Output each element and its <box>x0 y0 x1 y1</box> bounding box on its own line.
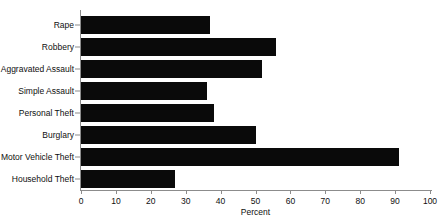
category-label: Household Theft <box>12 175 74 184</box>
bar <box>81 38 276 56</box>
bar-row <box>81 82 430 100</box>
category-label: Rape <box>54 21 74 30</box>
y-axis-tick <box>75 113 80 114</box>
y-axis-tick <box>75 69 80 70</box>
category-label: Personal Theft <box>19 109 74 118</box>
x-axis-tick-label: 30 <box>181 196 190 206</box>
plot-area <box>81 14 430 190</box>
x-axis-tick-label: 50 <box>251 196 260 206</box>
x-axis-tick-label: 20 <box>146 196 155 206</box>
bar <box>81 126 256 144</box>
bar <box>81 170 175 188</box>
category-label: Aggravated Assault <box>1 65 74 74</box>
bar <box>81 104 214 122</box>
bar-row <box>81 126 430 144</box>
y-axis-tick <box>75 47 80 48</box>
bar <box>81 16 210 34</box>
x-axis-tick-label: 70 <box>321 196 330 206</box>
bar <box>81 148 399 166</box>
bar-row <box>81 104 430 122</box>
x-axis-tick <box>360 190 361 194</box>
x-axis-title: Percent <box>81 207 430 217</box>
x-axis-tick <box>256 190 257 194</box>
x-axis-tick-label: 0 <box>79 196 84 206</box>
bar-row <box>81 38 430 56</box>
x-axis-tick <box>186 190 187 194</box>
x-axis-tick <box>221 190 222 194</box>
y-axis-tick <box>75 135 80 136</box>
category-axis-labels: RapeRobberyAggravated AssaultSimple Assa… <box>0 0 74 221</box>
x-axis-tick-label: 90 <box>390 196 399 206</box>
bar-row <box>81 170 430 188</box>
x-axis-tick <box>430 190 431 194</box>
bar <box>81 60 262 78</box>
x-axis-tick-label: 100 <box>423 196 437 206</box>
category-label: Simple Assault <box>18 87 74 96</box>
x-axis-tick <box>395 190 396 194</box>
category-label: Burglary <box>42 131 74 140</box>
y-axis-tick <box>75 179 80 180</box>
x-axis-tick <box>116 190 117 194</box>
category-label: Motor Vehicle Theft <box>1 153 74 162</box>
y-axis-tick <box>75 157 80 158</box>
x-axis-tick <box>81 190 82 194</box>
x-axis-line <box>81 190 432 191</box>
bar-row <box>81 148 430 166</box>
x-axis-tick-label: 40 <box>216 196 225 206</box>
bar-row <box>81 16 430 34</box>
x-axis-tick <box>325 190 326 194</box>
y-axis-tick <box>75 25 80 26</box>
bar-chart: RapeRobberyAggravated AssaultSimple Assa… <box>0 0 439 221</box>
x-axis-tick <box>290 190 291 194</box>
x-axis-tick-label: 60 <box>286 196 295 206</box>
category-label: Robbery <box>42 43 74 52</box>
x-axis-tick-label: 80 <box>355 196 364 206</box>
y-axis-tick <box>75 91 80 92</box>
x-axis-tick-label: 10 <box>111 196 120 206</box>
bar <box>81 82 207 100</box>
bar-row <box>81 60 430 78</box>
x-axis-tick <box>151 190 152 194</box>
